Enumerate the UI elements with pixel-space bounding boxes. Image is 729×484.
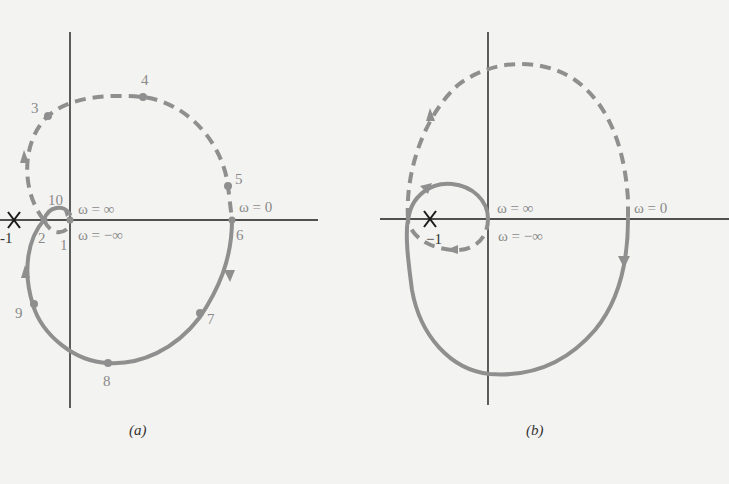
point-3 [44, 112, 52, 120]
point-9 [30, 300, 38, 308]
label-point-8: 8 [103, 373, 111, 389]
critical-point-label-b: −1 [426, 231, 442, 247]
arrow-down-b [618, 256, 630, 268]
nyquist-figure: -1 1 2 3 4 5 6 7 8 9 10 ω = ∞ ω = −∞ ω =… [0, 0, 729, 484]
omega-minus-inf-label-a: ω = −∞ [78, 227, 123, 243]
label-point-5: 5 [235, 171, 243, 187]
caption-b: (b) [526, 422, 544, 439]
point-5 [224, 182, 232, 190]
point-2 [41, 217, 48, 224]
label-point-1: 1 [60, 237, 68, 253]
label-point-6: 6 [236, 227, 244, 243]
point-1 [67, 217, 74, 224]
label-point-4: 4 [141, 72, 149, 88]
label-point-9: 9 [15, 305, 23, 321]
caption-a: (a) [129, 422, 147, 439]
point-7 [196, 309, 204, 317]
omega-zero-label-a: ω = 0 [239, 199, 272, 215]
omega-zero-label-b: ω = 0 [634, 200, 667, 216]
panel-b: −1 ω = ∞ ω = −∞ ω = 0 (b) [380, 32, 729, 439]
point-4 [139, 93, 147, 101]
point-8 [104, 359, 112, 367]
panel-a: -1 1 2 3 4 5 6 7 8 9 10 ω = ∞ ω = −∞ ω =… [0, 32, 318, 439]
arrow-up-a [20, 150, 29, 163]
label-point-7: 7 [207, 311, 215, 327]
point-6 [229, 217, 236, 224]
arrow-loop-lower-b [446, 245, 458, 254]
label-point-10: 10 [48, 192, 63, 208]
label-point-2: 2 [38, 230, 46, 246]
dashed-contour-b [408, 64, 628, 219]
omega-plus-inf-label-a: ω = ∞ [78, 201, 115, 217]
critical-point-label-a: -1 [0, 230, 13, 246]
omega-minus-inf-label-b: ω = −∞ [498, 228, 543, 244]
small-loop-dashed-b [408, 219, 488, 250]
small-loop-solid-b [408, 184, 488, 222]
solid-contour-a [27, 220, 232, 363]
arrow-down-a [224, 270, 235, 282]
small-loop-dashed-a [44, 220, 70, 232]
omega-plus-inf-label-b: ω = ∞ [497, 200, 534, 216]
label-point-3: 3 [31, 100, 39, 116]
